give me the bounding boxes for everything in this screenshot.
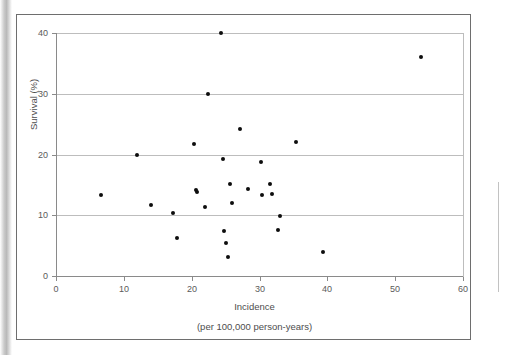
x-tick-50 [395,277,396,281]
data-point [171,211,175,215]
data-point [278,214,282,218]
data-point [321,250,325,254]
data-point [276,228,280,232]
x-tick-0 [56,277,57,281]
y-tick-label-40: 40 [22,28,48,38]
data-point [203,205,207,209]
x-tick-30 [260,277,261,281]
y-tick-30 [52,94,56,95]
y-tick-20 [52,155,56,156]
gridline-y-10 [56,215,463,216]
data-point [259,160,263,164]
data-point [206,92,210,96]
x-tick-40 [327,277,328,281]
data-point [260,193,264,197]
gridline-y-30 [56,94,463,95]
data-point [192,142,196,146]
gridline-y-40 [56,33,463,34]
data-point [228,182,232,186]
data-point [175,236,179,240]
x-tick-label-50: 50 [380,284,410,294]
x-tick-20 [192,277,193,281]
data-point [268,182,272,186]
data-point [230,201,234,205]
y-axis-line [56,33,57,277]
data-point [222,229,226,233]
gridline-y-20 [56,155,463,156]
x-tick-60 [463,277,464,281]
plot-right-edge [463,33,464,277]
x-tick-label-30: 30 [245,284,275,294]
data-point [195,190,199,194]
x-tick-10 [124,277,125,281]
x-tick-label-10: 10 [109,284,139,294]
data-point [99,193,103,197]
data-point [270,192,274,196]
y-tick-label-10: 10 [22,210,48,220]
data-point [226,255,230,259]
scatter-plot: Survival (%) Incidence (per 100,000 pers… [0,0,509,355]
data-point [246,187,250,191]
y-axis-label: Survival (%) [28,79,39,130]
y-tick-10 [52,215,56,216]
y-tick-40 [52,33,56,34]
data-point [419,55,423,59]
x-tick-label-0: 0 [41,284,71,294]
x-axis-label: Incidence [0,301,509,312]
x-tick-label-60: 60 [448,284,478,294]
data-point [224,241,228,245]
y-tick-label-20: 20 [22,150,48,160]
x-tick-label-40: 40 [312,284,342,294]
data-point [221,157,225,161]
data-point [238,127,242,131]
x-tick-label-20: 20 [177,284,207,294]
data-point [135,153,139,157]
x-axis-sublabel: (per 100,000 person-years) [0,321,509,332]
data-point [149,203,153,207]
data-point [219,31,223,35]
data-point [294,140,298,144]
y-tick-label-0: 0 [22,271,48,281]
y-tick-label-30: 30 [22,89,48,99]
